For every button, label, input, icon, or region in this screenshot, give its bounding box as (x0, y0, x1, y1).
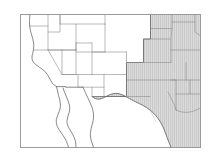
map-canvas (0, 0, 212, 164)
map-figure (0, 0, 212, 164)
